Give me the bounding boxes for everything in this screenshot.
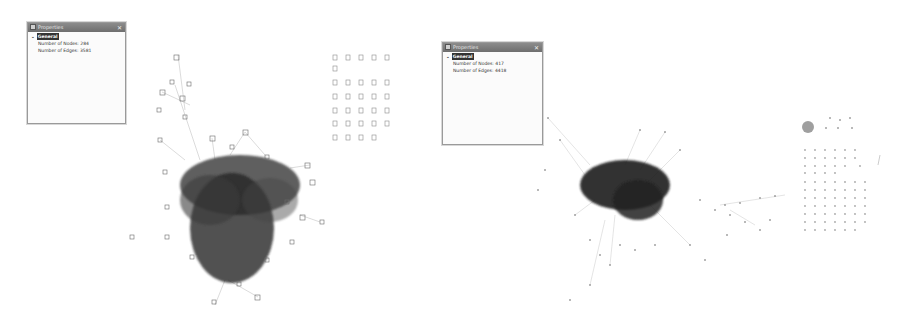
property-value: 4418 bbox=[495, 68, 506, 73]
collapse-icon[interactable]: ⌄ bbox=[31, 33, 35, 40]
section-general[interactable]: ⌄ General bbox=[446, 53, 539, 60]
panel-titlebar[interactable]: Properties ✕ bbox=[443, 43, 542, 52]
node-count-row: Number of Nodes: 417 bbox=[446, 60, 539, 67]
property-label: Number of Nodes: bbox=[453, 61, 494, 66]
collapse-icon[interactable]: ⌄ bbox=[446, 53, 450, 60]
right-network-graph[interactable] bbox=[537, 117, 880, 301]
app-icon bbox=[445, 44, 451, 50]
property-label: Number of Edges: bbox=[38, 48, 78, 53]
properties-panel-right[interactable]: Properties ✕ ⌄ General Number of Nodes: … bbox=[442, 42, 543, 145]
section-label: General bbox=[37, 33, 59, 40]
panel-titlebar[interactable]: Properties ✕ bbox=[28, 23, 125, 32]
property-value: 3581 bbox=[80, 48, 91, 53]
section-label: General bbox=[452, 53, 474, 60]
property-label: Number of Edges: bbox=[453, 68, 493, 73]
panel-title: Properties bbox=[38, 23, 63, 32]
edge-count-row: Number of Edges: 4418 bbox=[446, 67, 539, 74]
node-count-row: Number of Nodes: 284 bbox=[31, 40, 122, 47]
property-label: Number of Nodes: bbox=[38, 41, 79, 46]
properties-panel-left[interactable]: Properties ✕ ⌄ General Number of Nodes: … bbox=[27, 22, 126, 124]
edge-count-row: Number of Edges: 3581 bbox=[31, 47, 122, 54]
section-general[interactable]: ⌄ General bbox=[31, 33, 122, 40]
close-icon[interactable]: ✕ bbox=[534, 43, 539, 52]
app-icon bbox=[30, 24, 36, 30]
close-icon[interactable]: ✕ bbox=[117, 23, 122, 32]
property-value: 284 bbox=[80, 41, 89, 46]
property-value: 417 bbox=[495, 61, 504, 66]
left-network-graph[interactable] bbox=[130, 55, 389, 305]
panel-title: Properties bbox=[453, 43, 478, 52]
